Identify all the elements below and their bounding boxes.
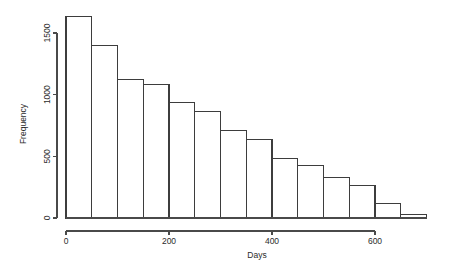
histogram-bar bbox=[66, 17, 92, 218]
x-axis: 0200400600 bbox=[64, 231, 383, 246]
histogram-bar bbox=[375, 204, 401, 218]
x-axis-ticks: 0200400600 bbox=[64, 231, 383, 246]
histogram-bar bbox=[349, 186, 375, 218]
x-axis-title: Days bbox=[247, 250, 266, 260]
histogram-bar bbox=[324, 177, 350, 218]
histogram-bar bbox=[298, 166, 324, 218]
x-axis-tick-label: 200 bbox=[162, 236, 176, 246]
histogram-bar bbox=[118, 80, 144, 218]
histogram-chart: 050010001500 0200400600 Frequency Days bbox=[0, 0, 474, 271]
bars-group bbox=[66, 17, 427, 218]
y-axis: 050010001500 bbox=[42, 23, 57, 220]
histogram-bar bbox=[221, 130, 247, 218]
y-axis-ticks: 050010001500 bbox=[42, 23, 57, 220]
x-axis-tick-label: 0 bbox=[64, 236, 69, 246]
y-axis-tick-label: 1500 bbox=[42, 23, 52, 42]
histogram-bar bbox=[272, 158, 298, 218]
histogram-plot-panel: 050010001500 0200400600 Frequency Days bbox=[0, 0, 474, 271]
x-axis-tick-label: 400 bbox=[265, 236, 279, 246]
histogram-bar bbox=[92, 45, 118, 218]
histogram-bar bbox=[169, 102, 195, 218]
x-axis-tick-label: 600 bbox=[368, 236, 382, 246]
y-axis-tick-label: 1000 bbox=[42, 85, 52, 104]
histogram-bar bbox=[195, 112, 221, 218]
y-axis-tick-label: 0 bbox=[42, 215, 52, 220]
y-axis-tick-label: 500 bbox=[42, 149, 52, 163]
histogram-bar bbox=[246, 139, 272, 218]
histogram-bar bbox=[143, 85, 169, 218]
y-axis-title: Frequency bbox=[18, 103, 28, 144]
